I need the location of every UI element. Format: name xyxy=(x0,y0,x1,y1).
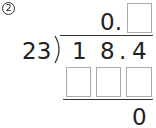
quotient-answer-box[interactable] xyxy=(127,3,152,33)
subtraction-line xyxy=(63,99,153,100)
divisor: 23 xyxy=(22,40,51,63)
dividend-digit-2: 8 xyxy=(100,40,115,63)
division-bracket xyxy=(53,35,63,65)
remainder: 0 xyxy=(132,106,147,128)
dividend-digit-1: 1 xyxy=(72,40,87,63)
quotient-prefix: 0. xyxy=(100,11,122,34)
division-bar xyxy=(60,35,153,36)
dividend-digit-3: 4 xyxy=(132,40,147,63)
product-box-2[interactable] xyxy=(96,67,121,97)
product-box-1[interactable] xyxy=(66,67,91,97)
problem-number: 2 xyxy=(2,2,15,15)
dividend-point: . xyxy=(119,40,126,63)
product-box-3[interactable] xyxy=(126,67,152,97)
